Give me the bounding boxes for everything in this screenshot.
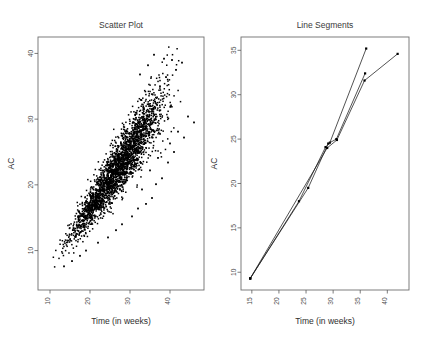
x-tick-label: 25 xyxy=(300,297,307,305)
scatter-point xyxy=(69,224,71,226)
y-tick-label: 25 xyxy=(230,135,237,143)
scatter-point xyxy=(101,202,103,204)
scatter-point xyxy=(168,84,170,86)
scatter-point xyxy=(92,219,94,221)
scatter-point xyxy=(94,216,96,218)
scatter-point xyxy=(123,190,125,192)
scatter-point xyxy=(101,164,103,166)
scatter-point xyxy=(80,221,82,223)
scatter-point xyxy=(76,233,78,235)
scatter-point xyxy=(153,134,155,136)
scatter-point xyxy=(110,163,112,165)
scatter-point xyxy=(109,202,111,204)
scatter-point xyxy=(119,181,121,183)
scatter-point xyxy=(122,123,124,125)
scatter-point xyxy=(107,169,109,171)
scatter-point xyxy=(94,201,96,203)
scatter-outlier-point xyxy=(163,58,165,60)
scatter-point xyxy=(157,133,159,135)
scatter-point xyxy=(128,141,130,143)
scatter-point xyxy=(110,171,112,173)
line-vertex-marker xyxy=(365,47,367,49)
scatter-point xyxy=(105,153,107,155)
scatter-point xyxy=(80,213,82,215)
scatter-point xyxy=(136,184,138,186)
scatter-point xyxy=(143,132,145,134)
scatter-point xyxy=(87,226,89,228)
scatter-point xyxy=(89,210,91,212)
scatter-point xyxy=(144,149,146,151)
line-vertex-marker xyxy=(249,277,251,279)
scatter-point xyxy=(111,151,113,153)
scatter-point xyxy=(133,118,135,120)
scatter-point xyxy=(121,199,123,201)
scatter-point xyxy=(88,192,90,194)
line-vertex-marker xyxy=(364,72,366,74)
scatter-point xyxy=(83,209,85,211)
scatter-point xyxy=(152,123,154,125)
scatter-point xyxy=(133,151,135,153)
scatter-point xyxy=(98,209,100,211)
scatter-point xyxy=(125,133,127,135)
scatter-point xyxy=(110,177,112,179)
scatter-point xyxy=(114,173,116,175)
scatter-point xyxy=(81,203,83,205)
scatter-point xyxy=(150,76,152,78)
scatter-point xyxy=(109,187,111,189)
scatter-point xyxy=(86,208,88,210)
scatter-point xyxy=(98,204,100,206)
scatter-point xyxy=(160,152,162,154)
scatter-point xyxy=(140,145,142,147)
scatter-point xyxy=(169,102,171,104)
scatter-point xyxy=(115,156,117,158)
scatter-point xyxy=(123,154,125,156)
scatter-point xyxy=(129,121,131,123)
scatter-point xyxy=(116,184,118,186)
scatter-point xyxy=(136,134,138,136)
scatter-outlier-point xyxy=(171,59,173,61)
scatter-point xyxy=(145,94,147,96)
scatter-point xyxy=(157,102,159,104)
scatter-point xyxy=(105,186,107,188)
scatter-point xyxy=(134,129,136,131)
scatter-point xyxy=(134,128,136,130)
scatter-point xyxy=(123,124,125,126)
scatter-point xyxy=(125,142,127,144)
scatter-point xyxy=(158,128,160,130)
scatter-point xyxy=(126,144,128,146)
scatter-point xyxy=(95,193,97,195)
scatter-point xyxy=(167,79,169,81)
scatter-point xyxy=(136,123,138,125)
scatter-point xyxy=(67,225,69,227)
scatter-point xyxy=(124,126,126,128)
scatter-point xyxy=(155,116,157,118)
scatter-outlier-point xyxy=(131,216,133,218)
scatter-outlier-point xyxy=(97,242,99,244)
scatter-point xyxy=(161,61,163,63)
scatter-point xyxy=(152,147,154,149)
scatter-point xyxy=(135,125,137,127)
scatter-point xyxy=(73,232,75,234)
scatter-point xyxy=(126,164,128,166)
scatter-point xyxy=(160,92,162,94)
scatter-point xyxy=(83,235,85,237)
scatter-point xyxy=(134,160,136,162)
scatter-point xyxy=(85,232,87,234)
scatter-point xyxy=(100,172,102,174)
scatter-point xyxy=(65,233,67,235)
scatter-point xyxy=(72,229,74,231)
scatter-point xyxy=(137,101,139,103)
scatter-point xyxy=(143,102,145,104)
scatter-point xyxy=(138,151,140,153)
scatter-point xyxy=(77,239,79,241)
scatter-point xyxy=(114,187,116,189)
scatter-point xyxy=(145,112,147,114)
scatter-point xyxy=(127,139,129,141)
scatter-point xyxy=(157,125,159,127)
scatter-point xyxy=(75,235,77,237)
scatter-point xyxy=(141,136,143,138)
scatter-point xyxy=(101,170,103,172)
scatter-point xyxy=(153,113,155,115)
scatter-point xyxy=(119,180,121,182)
scatter-point xyxy=(78,230,80,232)
